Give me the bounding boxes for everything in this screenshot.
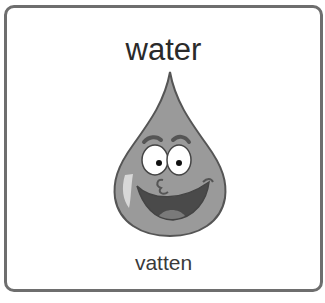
flashcard[interactable]: water vatten — [4, 5, 323, 292]
word-label: water — [7, 32, 320, 68]
translation-label: vatten — [7, 250, 320, 276]
water-drop-icon — [111, 70, 229, 238]
